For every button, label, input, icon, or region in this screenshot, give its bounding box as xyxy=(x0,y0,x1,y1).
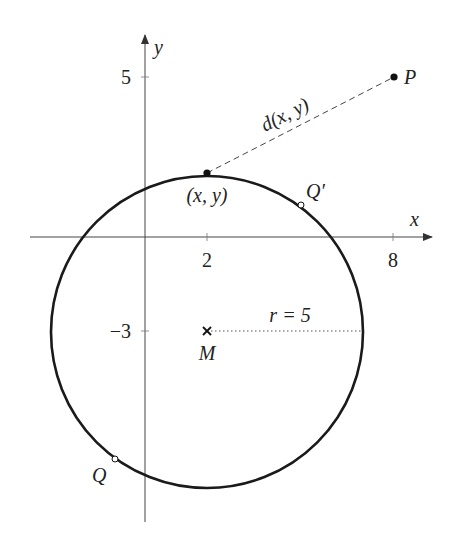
y-axis-label: y xyxy=(152,36,163,59)
point-p-label: P xyxy=(403,66,416,88)
point-xy-label: (x, y) xyxy=(186,184,227,207)
point-q-label: Q xyxy=(92,464,107,486)
x-axis-label: x xyxy=(409,208,419,230)
diagram: y x 2 8 5 −3 P (x, y) Q′ Q M r = 5 d(x, … xyxy=(0,0,460,545)
distance-line xyxy=(207,77,394,173)
center-label: M xyxy=(198,342,217,364)
radius-label: r = 5 xyxy=(269,304,310,326)
y-tick-label-5: 5 xyxy=(121,66,131,88)
center-cross-icon xyxy=(203,327,211,335)
point-q xyxy=(112,456,118,462)
point-xy xyxy=(203,169,210,176)
distance-label: d(x, y) xyxy=(257,93,313,137)
point-q-prime-label: Q′ xyxy=(306,180,325,202)
point-p xyxy=(390,73,397,80)
x-tick-label-2: 2 xyxy=(202,249,212,271)
point-q-prime xyxy=(298,202,304,208)
x-tick-label-8: 8 xyxy=(388,249,398,271)
y-tick-label-neg3: −3 xyxy=(110,320,131,342)
